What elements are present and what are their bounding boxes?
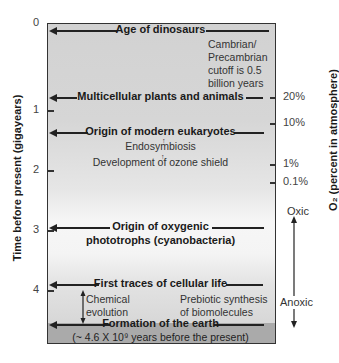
y-tick-4 xyxy=(48,290,54,292)
event-multicellular: Multicellular plants and animals xyxy=(49,91,272,103)
y-axis-title: Time before present (gigayears) xyxy=(11,83,23,273)
event-formation-of-earth: Formation of the earth xyxy=(49,318,272,330)
event-oxygenic-phototrophs: Origin of oxygenic xyxy=(49,221,272,233)
y-tick-label-3: 3 xyxy=(25,223,39,235)
y-tick-label-1: 1 xyxy=(25,103,39,115)
oxic-anoxic-arrow-icon xyxy=(289,216,299,328)
event-label: Origin of oxygenic xyxy=(109,220,212,232)
event-label: Formation of the earth xyxy=(99,317,222,329)
y-tick-1 xyxy=(48,110,54,112)
o2-label-10: 10% xyxy=(283,116,305,128)
small-up-arrow-icon: ↑ xyxy=(161,154,165,160)
earth-age-note: (~ 4.6 X 10⁹ years before the present) xyxy=(49,331,272,343)
o2-label-0-1: 0.1% xyxy=(283,175,308,187)
chemical-evolution-note: Chemical evolution xyxy=(86,293,130,319)
o2-label-1: 1% xyxy=(283,157,299,169)
oxygenic-label-line2: phototrophs (cyanobacteria) xyxy=(49,234,272,246)
o2-label-20: 20% xyxy=(283,90,305,102)
event-cellular-life: First traces of cellular life xyxy=(49,278,272,290)
anoxic-label: Anoxic xyxy=(279,296,314,309)
y-tick-label-2: 2 xyxy=(25,163,39,175)
event-label: Age of dinosaurs xyxy=(113,23,209,35)
y-tick-label-0: 0 xyxy=(25,16,39,28)
event-label: Origin of modern eukaryotes xyxy=(82,125,238,137)
small-up-arrow-icon: ↑ xyxy=(162,138,166,144)
cambrian-note: Cambrian/ Precambrian cutoff is 0.5 bill… xyxy=(208,38,268,90)
event-label: First traces of cellular life xyxy=(91,277,230,289)
o2-tick-0-1 xyxy=(270,182,276,184)
event-label: Multicellular plants and animals xyxy=(74,90,246,102)
prebiotic-note: Prebiotic synthesis of biomolecules xyxy=(180,293,268,319)
o2-axis-title: O₂ (percent in atmosphere) xyxy=(327,55,339,225)
event-eukaryotes: Origin of modern eukaryotes xyxy=(49,126,272,138)
y-tick-2 xyxy=(48,170,54,172)
event-age-of-dinosaurs: Age of dinosaurs xyxy=(49,24,272,36)
y-tick-label-4: 4 xyxy=(25,283,39,295)
endosymbiosis-note: Endosymbiosis xyxy=(49,140,272,153)
